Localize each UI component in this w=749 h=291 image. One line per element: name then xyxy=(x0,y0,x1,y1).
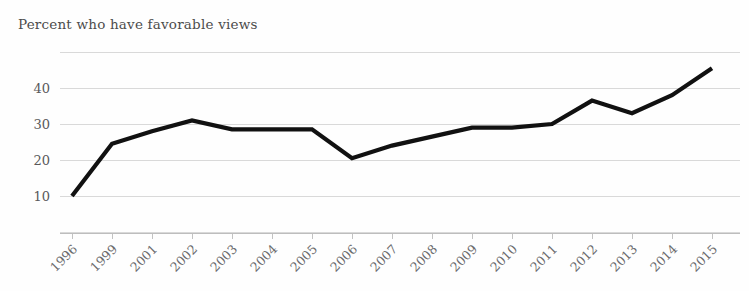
y-axis-tick-label: 30 xyxy=(33,117,50,132)
x-axis-tick-label: 2005 xyxy=(287,242,320,275)
x-axis-tick-label: 1996 xyxy=(47,241,80,274)
x-axis-labels-group: 1996199920012002200320042005200620072008… xyxy=(47,241,720,274)
x-axis-tick-label: 2011 xyxy=(527,242,560,275)
x-axis-tick-label: 2010 xyxy=(487,241,520,274)
x-axis-tick-label: 2015 xyxy=(687,242,720,275)
x-axis-tick-label: 2004 xyxy=(247,241,280,274)
y-axis-tick-label: 10 xyxy=(33,189,50,204)
chart-container: Percent who have favorable views 1020304… xyxy=(0,0,749,291)
x-axis-tick-label: 2013 xyxy=(607,241,640,274)
x-axis-tick-label: 2009 xyxy=(447,241,480,274)
x-axis-tick-label: 2001 xyxy=(127,242,160,275)
x-axis-tick-label: 1999 xyxy=(87,241,120,274)
line-chart-plot: 10203040 1996199920012002200320042005200… xyxy=(0,0,749,291)
x-axis-tickmarks-group xyxy=(72,233,712,239)
x-axis-tick-label: 2007 xyxy=(367,241,400,274)
x-axis-tick-label: 2003 xyxy=(207,241,240,274)
data-series-line xyxy=(72,68,712,196)
x-axis-tick-label: 2012 xyxy=(567,242,600,275)
x-axis-tick-label: 2002 xyxy=(167,242,200,275)
x-axis-tick-label: 2014 xyxy=(647,241,680,274)
y-axis-labels-group: 10203040 xyxy=(33,81,50,204)
x-axis-tick-label: 2006 xyxy=(327,241,360,274)
y-axis-tick-label: 20 xyxy=(33,153,50,168)
x-axis-tick-label: 2008 xyxy=(407,241,440,274)
y-axis-tick-label: 40 xyxy=(33,81,50,96)
